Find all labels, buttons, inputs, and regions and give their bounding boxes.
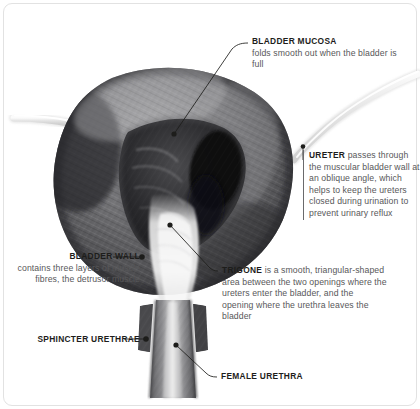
label-bladder-wall: BLADDER WALLcontains three layers of mus… [8,251,140,286]
leader-dot-sphincter-urethrae [143,336,149,342]
leader-dot-ureter [301,144,306,149]
label-bladder-mucosa-body: folds smooth out when the bladder is ful… [252,48,397,70]
label-bladder-mucosa-heading: BLADDER MUCOSA [252,36,402,48]
label-trigone: TRIGONE is a smooth, triangular-shaped a… [222,265,387,323]
label-bladder-wall-body: contains three layers of muscle fibres, … [18,263,140,285]
leader-dot-female-urethra [173,342,178,347]
label-ureter-heading: URETER [309,150,345,160]
label-ureter-body: passes through the muscular bladder wall… [309,150,420,218]
label-trigone-heading: TRIGONE [222,265,262,275]
label-female-urethra: FEMALE URETHRA [221,371,351,383]
label-bladder-wall-heading: BLADDER WALL [8,251,140,263]
leader-female-urethra [206,373,217,377]
label-sphincter-urethrae-heading: SPHINCTER URETHRAE [37,334,140,344]
label-sphincter-urethrae: SPHINCTER URETHRAE [26,334,140,346]
label-bladder-mucosa: BLADDER MUCOSAfolds smooth out when the … [252,36,402,71]
leader-dot-trigone [167,222,172,227]
label-ureter: URETER passes through the muscular bladd… [303,150,420,220]
left-ureter-tube [14,116,72,125]
leader-dot-bladder-wall [139,254,145,260]
label-female-urethra-heading: FEMALE URETHRA [221,371,303,381]
right-ureter-tube [294,72,418,161]
leader-dot-bladder-mucosa [171,131,176,136]
leader-bladder-mucosa [232,43,248,49]
urethra [150,300,196,398]
anatomical-figure: BLADDER MUCOSAfolds smooth out when the … [0,0,420,409]
